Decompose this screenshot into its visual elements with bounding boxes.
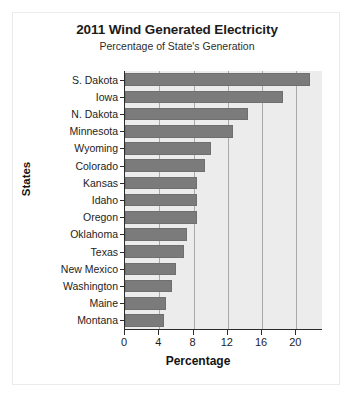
y-axis-tick [120, 131, 125, 132]
x-axis-title: Percentage [73, 354, 323, 368]
x-axis-tick [295, 330, 296, 335]
y-axis-tick [120, 252, 125, 253]
x-axis-tick [124, 330, 125, 335]
y-axis-tick [120, 303, 125, 304]
y-axis-tick-labels: S. DakotaIowaN. DakotaMinnesotaWyomingCo… [16, 71, 118, 329]
y-axis-tick-label: Washington [18, 280, 118, 292]
bar [125, 263, 176, 276]
bar-row [125, 140, 322, 157]
y-axis-tick-label: Minnesota [18, 125, 118, 137]
bar-row [125, 191, 322, 208]
chart-subtitle: Percentage of State's Generation [13, 39, 341, 53]
bar-row [125, 105, 322, 122]
y-axis-tick [120, 234, 125, 235]
bar [125, 142, 211, 155]
bar-row [125, 260, 322, 277]
y-axis-tick-label: Oklahoma [18, 228, 118, 240]
x-axis-tick-label: 4 [143, 336, 173, 349]
bar [125, 314, 164, 327]
chart-card: 2011 Wind Generated Electricity Percenta… [12, 12, 340, 385]
y-axis-tick [120, 97, 125, 98]
bar-row [125, 71, 322, 88]
x-axis-tick-label: 0 [109, 336, 139, 349]
bar-row [125, 123, 322, 140]
y-axis-tick-label: Kansas [18, 177, 118, 189]
y-axis-tick-label: Maine [18, 297, 118, 309]
x-axis-tick-label: 16 [246, 336, 276, 349]
bar [125, 177, 197, 190]
y-axis-tick [120, 166, 125, 167]
x-axis-tick [261, 330, 262, 335]
y-axis-tick-label: Montana [18, 314, 118, 326]
bar [125, 228, 187, 241]
y-axis-tick [120, 217, 125, 218]
y-axis-tick-label: S. Dakota [18, 74, 118, 86]
y-axis-tick [120, 114, 125, 115]
chart-title-block: 2011 Wind Generated Electricity Percenta… [13, 22, 341, 53]
y-axis-tick-label: Idaho [18, 194, 118, 206]
bar-row [125, 174, 322, 191]
y-axis-tick-label: Wyoming [18, 142, 118, 154]
bar [125, 245, 184, 258]
x-axis-tick [193, 330, 194, 335]
bar [125, 108, 248, 121]
bar-row [125, 243, 322, 260]
x-axis-tick-label: 12 [212, 336, 242, 349]
chart-title: 2011 Wind Generated Electricity [13, 22, 341, 38]
bar-row [125, 209, 322, 226]
bar [125, 194, 197, 207]
bar [125, 211, 197, 224]
y-axis-tick [120, 269, 125, 270]
x-axis-tick [227, 330, 228, 335]
bar-row [125, 157, 322, 174]
y-axis-tick-label: Oregon [18, 211, 118, 223]
bar-row [125, 277, 322, 294]
x-axis-tick-label: 20 [280, 336, 310, 349]
bar [125, 297, 166, 310]
y-axis-tick [120, 286, 125, 287]
x-axis-tick-label: 8 [178, 336, 208, 349]
y-axis-tick-label: N. Dakota [18, 108, 118, 120]
bar [125, 91, 283, 104]
y-axis-tick-label: Texas [18, 246, 118, 258]
bar [125, 280, 172, 293]
bar [125, 159, 205, 172]
plot-area [124, 71, 322, 330]
bar [125, 125, 233, 138]
y-axis-tick [120, 200, 125, 201]
y-axis-tick-label: Colorado [18, 160, 118, 172]
bar-row [125, 312, 322, 329]
y-axis-tick [120, 320, 125, 321]
bar-row [125, 226, 322, 243]
y-axis-tick [120, 80, 125, 81]
bar-row [125, 295, 322, 312]
bar [125, 73, 310, 86]
x-axis-tick [158, 330, 159, 335]
y-axis-tick-label: Iowa [18, 91, 118, 103]
y-axis-tick [120, 183, 125, 184]
x-axis: 048121620 [124, 330, 323, 354]
y-axis-tick [120, 148, 125, 149]
y-axis-tick-label: New Mexico [18, 263, 118, 275]
bar-row [125, 88, 322, 105]
